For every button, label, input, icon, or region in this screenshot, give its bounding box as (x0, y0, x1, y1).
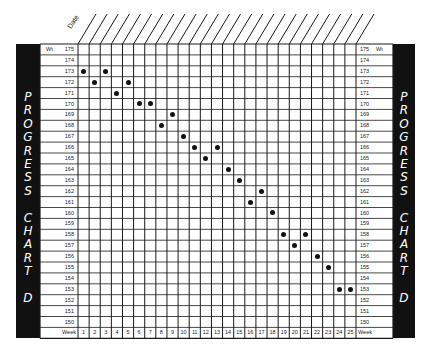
week-number: 6 (134, 327, 145, 338)
weight-label-right: 153 (360, 284, 374, 295)
weight-label-right: 173 (360, 66, 374, 77)
weight-header-right: Wt (376, 44, 390, 55)
data-point (248, 200, 253, 205)
weight-label-left: 157 (60, 240, 74, 251)
weight-label-right: 164 (360, 164, 374, 175)
weight-label-left: 166 (60, 142, 74, 153)
weight-label-right: 154 (360, 273, 374, 284)
weight-label-left: 174 (60, 55, 74, 66)
weight-label-right: 160 (360, 208, 374, 219)
week-number: 10 (178, 327, 189, 338)
weight-label-right: 150 (360, 317, 374, 328)
weight-label-right: 152 (360, 295, 374, 306)
data-point (126, 80, 131, 85)
weight-label-left: 150 (60, 317, 74, 328)
weight-label-left: 171 (60, 88, 74, 99)
weight-label-left: 164 (60, 164, 74, 175)
week-number: 24 (334, 327, 345, 338)
weight-label-right: 167 (360, 131, 374, 142)
data-point (326, 265, 331, 270)
weight-label-left: 151 (60, 306, 74, 317)
weight-label-left: 175 (60, 44, 74, 55)
progress-chart: PROGRESSCHARTD PROGRESSCHARTD Date WtWt1… (0, 0, 430, 357)
weight-label-left: 153 (60, 284, 74, 295)
data-point (259, 189, 264, 194)
weight-label-left: 159 (60, 218, 74, 229)
weight-label-left: 154 (60, 273, 74, 284)
weight-label-right: 169 (360, 109, 374, 120)
week-number: 19 (278, 327, 289, 338)
weight-label-left: 169 (60, 109, 74, 120)
week-number: 14 (223, 327, 234, 338)
week-number: 17 (256, 327, 267, 338)
weight-label-left: 165 (60, 153, 74, 164)
weight-label-left: 163 (60, 175, 74, 186)
week-number: 11 (189, 327, 200, 338)
week-number: 7 (145, 327, 156, 338)
week-number: 16 (245, 327, 256, 338)
weight-label-left: 167 (60, 131, 74, 142)
weight-label-right: 168 (360, 120, 374, 131)
week-number: 20 (289, 327, 300, 338)
weight-label-right: 159 (360, 218, 374, 229)
weight-label-left: 155 (60, 262, 74, 273)
weight-label-right: 166 (360, 142, 374, 153)
weight-header-left: Wt (46, 44, 60, 55)
weight-label-right: 156 (360, 251, 374, 262)
data-point (81, 69, 86, 74)
data-point (226, 167, 231, 172)
weight-label-right: 158 (360, 229, 374, 240)
week-number: 8 (156, 327, 167, 338)
weight-label-left: 158 (60, 229, 74, 240)
week-number: 22 (312, 327, 323, 338)
week-header-right: Week (358, 327, 380, 338)
weight-label-right: 163 (360, 175, 374, 186)
week-number: 23 (323, 327, 334, 338)
week-number: 13 (211, 327, 222, 338)
weight-label-left: 152 (60, 295, 74, 306)
week-number: 3 (100, 327, 111, 338)
week-number: 18 (267, 327, 278, 338)
data-point (92, 80, 97, 85)
week-number: 5 (122, 327, 133, 338)
weight-label-right: 175 (360, 44, 374, 55)
weight-label-right: 161 (360, 197, 374, 208)
week-number: 25 (345, 327, 356, 338)
weight-label-left: 173 (60, 66, 74, 77)
weight-label-right: 151 (360, 306, 374, 317)
weight-label-right: 172 (360, 77, 374, 88)
weight-label-left: 168 (60, 120, 74, 131)
weight-label-right: 162 (360, 186, 374, 197)
week-number: 15 (234, 327, 245, 338)
week-number: 4 (111, 327, 122, 338)
weight-label-right: 174 (360, 55, 374, 66)
data-point (348, 287, 353, 292)
weight-label-right: 170 (360, 99, 374, 110)
weight-label-right: 165 (360, 153, 374, 164)
week-number: 12 (200, 327, 211, 338)
week-number: 2 (89, 327, 100, 338)
weight-label-right: 171 (360, 88, 374, 99)
week-number: 1 (78, 327, 89, 338)
weight-label-right: 157 (360, 240, 374, 251)
data-point (237, 178, 242, 183)
weight-label-left: 160 (60, 208, 74, 219)
weight-label-left: 172 (60, 77, 74, 88)
weight-label-left: 162 (60, 186, 74, 197)
data-point (315, 254, 320, 259)
week-header-left: Week (56, 327, 76, 338)
data-point (215, 145, 220, 150)
weight-label-left: 161 (60, 197, 74, 208)
week-number: 9 (167, 327, 178, 338)
weight-label-right: 155 (360, 262, 374, 273)
weight-label-left: 156 (60, 251, 74, 262)
week-number: 21 (300, 327, 311, 338)
weight-label-left: 170 (60, 99, 74, 110)
data-point (337, 287, 342, 292)
